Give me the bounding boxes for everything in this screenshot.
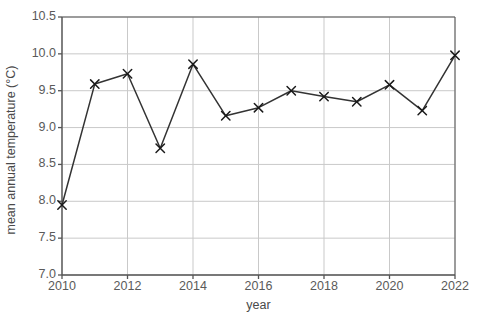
y-tick-label: 8.0 xyxy=(22,194,56,207)
y-tick-label: 9.5 xyxy=(22,84,56,97)
plot-area xyxy=(0,0,478,323)
gridlines xyxy=(62,17,455,275)
x-tick-label: 2020 xyxy=(360,279,420,293)
x-tick-label: 2010 xyxy=(32,279,92,293)
data-point-marker xyxy=(418,106,426,114)
chart-container: mean annual temperature (°C) 7.07.58.08.… xyxy=(0,0,478,323)
axis-tickmarks xyxy=(58,17,455,279)
x-axis-title: year xyxy=(62,298,455,313)
x-tick-label: 2014 xyxy=(163,279,223,293)
y-tick-label: 8.5 xyxy=(22,157,56,170)
data-point-marker xyxy=(91,80,99,88)
x-tick-label: 2022 xyxy=(425,279,478,293)
data-point-marker xyxy=(156,144,164,152)
x-axis-tick-labels: 2010201220142016201820202022 xyxy=(0,279,478,299)
y-axis-tick-labels: 7.07.58.08.59.09.510.010.5 xyxy=(16,0,56,323)
y-tick-label: 9.0 xyxy=(22,121,56,134)
x-tick-label: 2012 xyxy=(98,279,158,293)
y-tick-label: 7.5 xyxy=(22,231,56,244)
x-tick-label: 2016 xyxy=(229,279,289,293)
y-tick-label: 10.5 xyxy=(22,10,56,23)
x-tick-label: 2018 xyxy=(294,279,354,293)
y-tick-label: 10.0 xyxy=(22,47,56,60)
